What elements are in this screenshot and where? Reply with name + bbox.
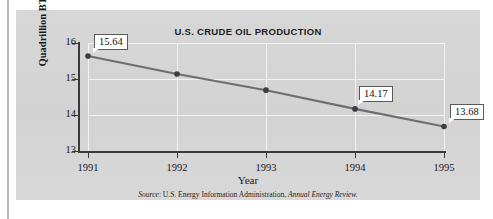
x-axis-tick-label: 1993 bbox=[236, 162, 296, 173]
x-axis-tick-label: 1992 bbox=[147, 162, 207, 173]
data-point-marker bbox=[174, 71, 180, 77]
callout-pointer bbox=[449, 118, 456, 123]
x-axis-title: Year bbox=[16, 174, 480, 186]
y-axis-tick-label: 16 bbox=[46, 37, 76, 48]
x-axis-tick bbox=[355, 152, 357, 158]
page-margin-rule bbox=[7, 0, 9, 219]
x-axis-tick bbox=[177, 152, 179, 158]
y-axis-tick-label: 14 bbox=[46, 109, 76, 120]
y-axis-tick-label: 13 bbox=[46, 145, 76, 156]
gridline-vertical bbox=[444, 43, 445, 151]
y-axis-tick-label: 15 bbox=[46, 73, 76, 84]
y-axis-line bbox=[78, 42, 80, 152]
data-point-marker bbox=[85, 53, 91, 59]
source-publication: Annual Energy Review. bbox=[288, 190, 358, 199]
x-axis-tick-label: 1994 bbox=[325, 162, 385, 173]
x-axis-tick-label: 1995 bbox=[414, 162, 474, 173]
data-point-marker bbox=[352, 106, 358, 112]
x-axis-line bbox=[78, 151, 446, 153]
x-axis-tick bbox=[266, 152, 268, 158]
source-agency: U.S. Energy Information Administration, bbox=[163, 190, 288, 199]
callout-pointer bbox=[93, 48, 100, 53]
data-point-marker bbox=[263, 87, 269, 93]
source-label: Source bbox=[138, 190, 159, 199]
x-axis-tick bbox=[88, 152, 90, 158]
callout-pointer bbox=[358, 100, 365, 105]
chart-figure-panel: U.S. CRUDE OIL PRODUCTION Quadrillion BT… bbox=[16, 10, 480, 200]
plot-area: 1314151619911992199319941995 15.6414.171… bbox=[88, 43, 444, 151]
chart-title: U.S. CRUDE OIL PRODUCTION bbox=[16, 26, 480, 37]
x-axis-tick-label: 1991 bbox=[58, 162, 118, 173]
x-axis-tick bbox=[444, 152, 446, 158]
data-point-marker bbox=[441, 124, 447, 130]
source-note: Source: U.S. Energy Information Administ… bbox=[16, 190, 480, 199]
